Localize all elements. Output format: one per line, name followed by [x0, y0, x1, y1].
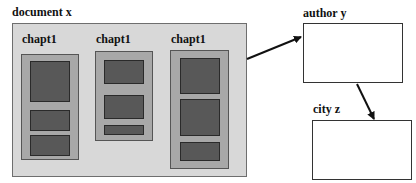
- relation-arrows: [0, 0, 416, 183]
- document-to-author-arrow: [247, 37, 301, 59]
- author-to-city-arrow: [357, 84, 374, 119]
